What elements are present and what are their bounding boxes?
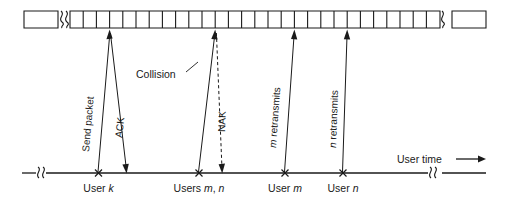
arrow-nak bbox=[216, 33, 225, 174]
timeline-labels: User k Users m, n User m User n bbox=[83, 182, 358, 194]
user-time-caption: User time bbox=[397, 153, 486, 165]
user-time-label: User time bbox=[397, 153, 442, 165]
timeline-left-break-icon bbox=[37, 167, 44, 178]
user-m-italic: m bbox=[293, 182, 302, 194]
user-n-italic: n bbox=[353, 182, 359, 194]
label-nak-text: NAK bbox=[216, 111, 228, 132]
timeline-right-break-icon bbox=[429, 167, 436, 178]
label-collision: Collision bbox=[136, 62, 198, 80]
timeline-label-user-k: User k bbox=[83, 182, 114, 194]
arrow-ack bbox=[110, 33, 128, 174]
label-m-rest: retransmits bbox=[268, 87, 283, 140]
user-k-prefix: User bbox=[83, 182, 108, 194]
timing-diagram: Send packet ACK NAK m retransmits n retr… bbox=[0, 0, 506, 206]
label-send-packet-text: Send packet bbox=[80, 96, 96, 153]
label-ack-text: ACK bbox=[113, 116, 126, 138]
slot-right-break-icon bbox=[441, 11, 444, 28]
timeline-group bbox=[22, 167, 486, 178]
user-n-prefix: User bbox=[328, 182, 353, 194]
slot-row-group bbox=[24, 11, 486, 28]
user-k-italic: k bbox=[108, 182, 114, 194]
figure-canvas: Send packet ACK NAK m retransmits n retr… bbox=[0, 0, 506, 206]
users-mn-italic2: n bbox=[219, 182, 225, 194]
label-m-retransmits: m retransmits bbox=[267, 87, 282, 148]
label-ack: ACK bbox=[113, 116, 126, 138]
users-mn-prefix: Users bbox=[174, 182, 204, 194]
slot-right-box bbox=[452, 11, 486, 28]
label-m-retransmits-text: m retransmits bbox=[267, 87, 282, 148]
users-mn-italic: m bbox=[204, 182, 213, 194]
label-n-retransmits: n retransmits bbox=[327, 90, 340, 148]
arrow-n-retransmits bbox=[343, 30, 351, 173]
arrow-collision bbox=[199, 30, 218, 173]
arrow-m-retransmits bbox=[285, 30, 298, 173]
label-n-rest: retransmits bbox=[327, 90, 340, 143]
arrow-send-packet bbox=[98, 30, 113, 173]
label-n-retransmits-text: n retransmits bbox=[327, 90, 340, 148]
label-collision-text: Collision bbox=[136, 68, 176, 80]
slot-left-box bbox=[24, 11, 58, 28]
timeline-label-user-m: User m bbox=[268, 182, 302, 194]
user-time-arrow-icon bbox=[456, 156, 486, 163]
label-nak: NAK bbox=[216, 111, 228, 132]
timeline-label-users-m-n: Users m, n bbox=[174, 182, 225, 194]
label-send-packet: Send packet bbox=[80, 96, 96, 153]
slot-band bbox=[70, 11, 440, 28]
slot-left-break-icon bbox=[60, 11, 68, 28]
user-m-prefix: User bbox=[268, 182, 293, 194]
timeline-label-user-n: User n bbox=[328, 182, 359, 194]
